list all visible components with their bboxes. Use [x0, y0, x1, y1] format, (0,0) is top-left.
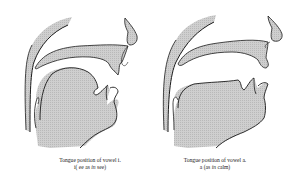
diagram-vowel-a	[148, 0, 298, 150]
caption-line-1: Tongue position of vowel a.	[140, 157, 290, 164]
caption-text: calm)	[216, 164, 230, 170]
diagram-vowel-i	[0, 0, 150, 150]
caption-text: see)	[96, 164, 106, 170]
vocal-tract-illustration-i	[0, 0, 150, 150]
caption-vowel-a: Tongue position of vowel a. a (as in cal…	[140, 157, 290, 171]
caption-line-2: a (as in calm)	[140, 164, 290, 171]
vocal-tract-illustration-a	[148, 0, 298, 150]
caption-text: a (as	[200, 164, 212, 170]
caption-text: i( ee as	[74, 164, 91, 170]
